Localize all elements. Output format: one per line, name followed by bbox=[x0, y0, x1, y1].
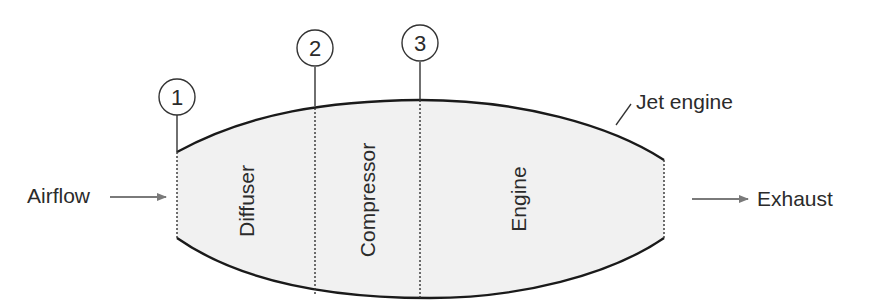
airflow-label: Airflow bbox=[27, 184, 91, 207]
station-marker-2: 2 bbox=[297, 30, 333, 104]
jet-engine-label: Jet engine bbox=[636, 90, 733, 113]
exhaust-label: Exhaust bbox=[757, 187, 833, 210]
section-label-compressor: Compressor bbox=[356, 143, 379, 257]
section-label-diffuser: Diffuser bbox=[235, 165, 258, 237]
station-number-3: 3 bbox=[414, 31, 426, 56]
section-label-engine: Engine bbox=[507, 166, 530, 231]
station-marker-3: 3 bbox=[402, 25, 438, 100]
station-number-2: 2 bbox=[309, 36, 321, 61]
station-marker-1: 1 bbox=[159, 79, 195, 152]
jet-engine-leader-line bbox=[616, 104, 631, 125]
jet-engine-diagram: Diffuser Compressor Engine 1 2 3 Jet eng… bbox=[0, 0, 880, 307]
station-number-1: 1 bbox=[171, 85, 183, 110]
